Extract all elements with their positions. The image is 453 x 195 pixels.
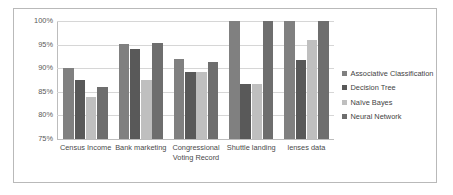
- bar: [86, 97, 97, 139]
- x-axis-category-label: Census Income: [58, 143, 113, 163]
- legend-swatch-icon: [342, 100, 347, 105]
- bar-groups: [58, 21, 334, 139]
- gridline: [57, 139, 334, 140]
- bar: [318, 21, 329, 139]
- legend-item[interactable]: Decision Tree: [342, 81, 448, 96]
- bar-group: [279, 21, 334, 139]
- bar: [284, 21, 295, 139]
- bar: [141, 80, 152, 139]
- bar: [252, 84, 263, 139]
- bar: [97, 87, 108, 139]
- bar: [119, 44, 130, 139]
- bar-group: [224, 21, 279, 139]
- x-axis-category-label: Shuttle landing: [224, 143, 279, 163]
- legend-item[interactable]: Neural Network: [342, 110, 448, 125]
- legend-item-label: Decision Tree: [351, 84, 396, 91]
- bar: [229, 21, 240, 139]
- legend-item[interactable]: Associative Classification: [342, 66, 448, 81]
- legend-item[interactable]: Naïve Bayes: [342, 95, 448, 110]
- bar: [196, 72, 207, 139]
- bar: [63, 68, 74, 139]
- bar: [174, 59, 185, 139]
- legend-item-label: Neural Network: [351, 113, 402, 120]
- y-axis-tick-label: 95%: [21, 41, 53, 48]
- y-axis-tick-label: 80%: [21, 112, 53, 119]
- bar: [208, 62, 219, 139]
- chart-legend: Associative ClassificationDecision TreeN…: [342, 66, 448, 124]
- x-axis-category-label: Bank marketing: [113, 143, 168, 163]
- x-axis-category-label: lenses data: [279, 143, 334, 163]
- bar: [296, 60, 307, 139]
- legend-swatch-icon: [342, 71, 347, 76]
- y-axis-tick-label: 75%: [21, 135, 53, 142]
- x-axis-category-labels: Census IncomeBank marketingCongressional…: [58, 143, 334, 163]
- y-axis-tick-label: 85%: [21, 88, 53, 95]
- legend-swatch-icon: [342, 114, 347, 119]
- legend-item-label: Associative Classification: [351, 70, 434, 77]
- bar: [130, 49, 141, 139]
- chart-container: 100%95%90%85%80%75% Census IncomeBank ma…: [13, 8, 437, 183]
- bar: [75, 80, 86, 139]
- y-axis-tick-label: 90%: [21, 64, 53, 71]
- y-axis-tick-label: 100%: [21, 17, 53, 24]
- bar: [185, 72, 196, 139]
- bar: [307, 40, 318, 139]
- bar: [152, 43, 163, 139]
- bar-group: [58, 21, 113, 139]
- bar-group: [168, 21, 223, 139]
- x-axis-category-label: Congressional Voting Record: [168, 143, 223, 163]
- bar-group: [113, 21, 168, 139]
- y-axis-tick-labels: 100%95%90%85%80%75%: [18, 21, 53, 139]
- bar: [240, 84, 251, 139]
- bar: [263, 21, 274, 139]
- legend-item-label: Naïve Bayes: [351, 99, 393, 106]
- legend-swatch-icon: [342, 85, 347, 90]
